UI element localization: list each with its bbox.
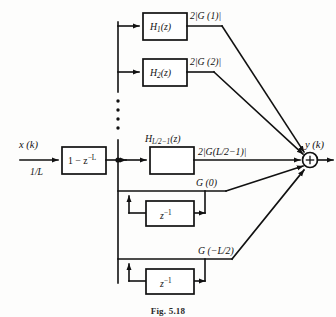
block-diagram: x (k) 1/L 1 − z−L H1(z) 2|G (1)| H2(z) 2… <box>0 0 336 317</box>
filter-block-3-label: HL/2−1(z) <box>144 133 180 146</box>
input-signal-label: x (k) <box>18 139 38 151</box>
branch-ellipsis <box>116 99 119 129</box>
bus-junction-dot <box>115 157 120 162</box>
branch-1-output <box>187 26 304 152</box>
figure-canvas: x (k) 1/L 1 − z−L H1(z) 2|G (1)| H2(z) 2… <box>0 0 336 317</box>
filter-block-3 <box>150 147 194 174</box>
branch-3-gain-label: 2|G(L/2−1)| <box>198 146 246 158</box>
figure-caption: Fig. 5.18 <box>0 306 336 316</box>
branch-2-output <box>187 72 303 154</box>
feedback-1-gain-label: G (0) <box>196 177 217 189</box>
input-gain-label: 1/L <box>30 166 43 177</box>
output-signal-label: y (k) <box>304 139 324 151</box>
feedback-2-gain-label: G (−L/2) <box>198 245 234 257</box>
branch-2-gain-label: 2|G (2)| <box>190 56 221 68</box>
branch-1-gain-label: 2|G (1)| <box>190 10 221 22</box>
